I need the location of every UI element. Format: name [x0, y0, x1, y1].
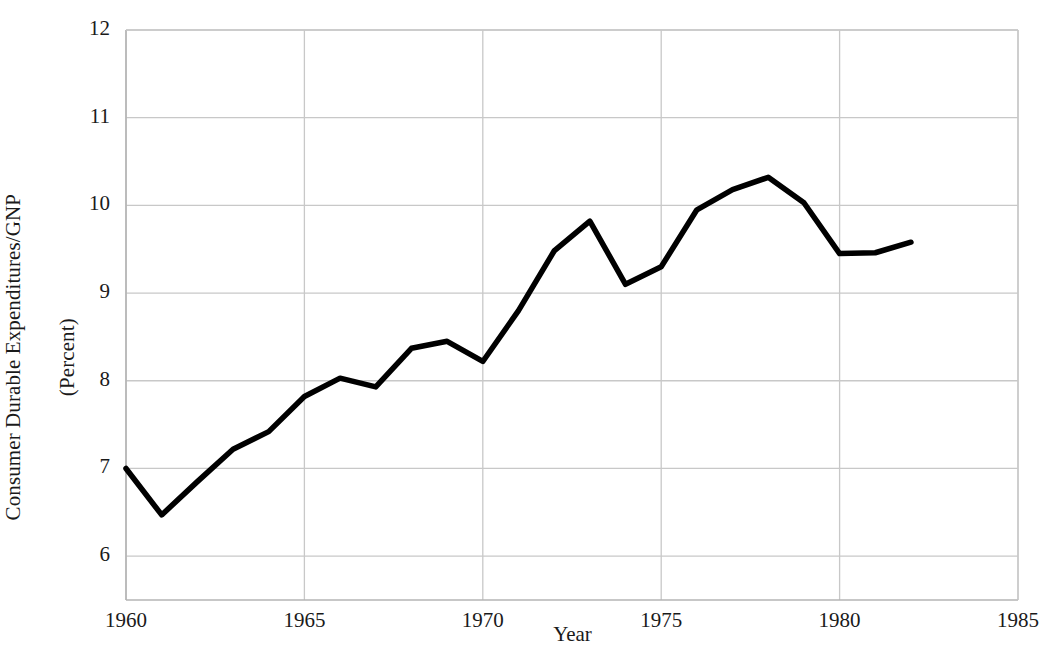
- data-series-line: [126, 177, 911, 515]
- y-tick-label: 12: [50, 16, 110, 41]
- y-tick-label: 8: [50, 367, 110, 392]
- x-tick-label: 1980: [795, 608, 885, 633]
- gridlines: [126, 30, 1018, 600]
- y-axis-title-line-1: Consumer Durable Expenditures/GNP: [0, 137, 27, 577]
- x-tick-label: 1960: [81, 608, 171, 633]
- y-tick-label: 6: [50, 542, 110, 567]
- chart-plot-area: [0, 0, 1057, 662]
- x-tick-label: 1965: [259, 608, 349, 633]
- x-tick-label: 1985: [973, 608, 1057, 633]
- y-tick-label: 11: [50, 104, 110, 129]
- line-chart: Consumer Durable Expenditures/GNP (Perce…: [0, 0, 1057, 662]
- x-tick-label: 1970: [438, 608, 528, 633]
- y-tick-label: 9: [50, 279, 110, 304]
- x-axis-title-text: Year: [553, 622, 592, 647]
- y-tick-label: 7: [50, 454, 110, 479]
- y-tick-label: 10: [50, 191, 110, 216]
- plot-frame: [126, 30, 1018, 600]
- x-tick-label: 1975: [616, 608, 706, 633]
